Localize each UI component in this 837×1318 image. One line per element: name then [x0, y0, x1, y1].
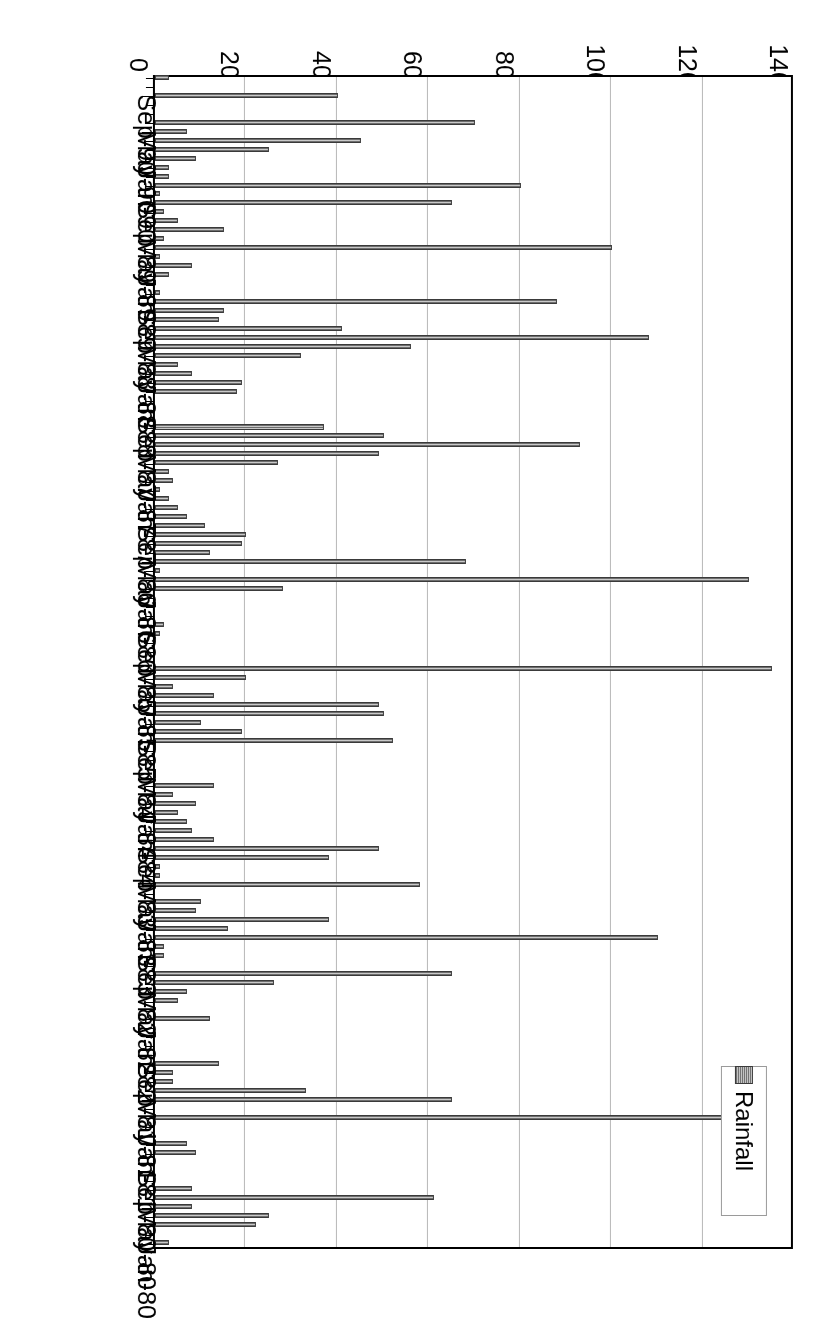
bar-row	[155, 425, 795, 430]
bar-row	[155, 433, 795, 438]
bar-row	[155, 416, 795, 421]
bar-row	[155, 263, 795, 268]
bar-row	[155, 675, 795, 680]
bar-row	[155, 568, 795, 573]
bar-row	[155, 308, 795, 313]
bar-row	[155, 1204, 795, 1209]
bar-row	[155, 819, 795, 824]
bar-row	[155, 774, 795, 779]
bar-Apr-85	[155, 675, 246, 680]
bar-Sep-83	[155, 846, 379, 851]
bar-Jun-86	[155, 550, 210, 555]
bar-row	[155, 1168, 795, 1173]
bar-row	[155, 577, 795, 582]
bar-row	[155, 792, 795, 797]
bar-Nov-90	[155, 75, 169, 80]
bar-row	[155, 147, 795, 152]
bar-Aug-86	[155, 532, 246, 537]
bar-row	[155, 111, 795, 116]
bar-row	[155, 1007, 795, 1012]
bar-Jun-87	[155, 442, 580, 447]
bar-row	[155, 1124, 795, 1129]
bar-row	[155, 926, 795, 931]
bar-row	[155, 362, 795, 367]
bar-row	[155, 658, 795, 663]
bar-Jan-85	[155, 702, 379, 707]
bar-Jun-81	[155, 1088, 306, 1093]
bar-row	[155, 1231, 795, 1236]
bar-row	[155, 200, 795, 205]
bar-Aug-87	[155, 425, 324, 430]
bar-Feb-82	[155, 1016, 210, 1021]
bar-row	[155, 613, 795, 618]
bar-row	[155, 407, 795, 412]
bar-row	[155, 971, 795, 976]
bar-Jun-80	[155, 1195, 434, 1200]
bar-row	[155, 174, 795, 179]
bar-row	[155, 1043, 795, 1048]
bar-row	[155, 765, 795, 770]
bar-row	[155, 1159, 795, 1164]
bar-row	[155, 864, 795, 869]
bar-row	[155, 649, 795, 654]
bar-row	[155, 514, 795, 519]
bar-row	[155, 935, 795, 940]
bar-Sep-84	[155, 738, 393, 743]
bar-Mar-83	[155, 899, 201, 904]
bar-row	[155, 1016, 795, 1021]
bar-row	[155, 846, 795, 851]
bar-row	[155, 908, 795, 913]
bar-Dec-82	[155, 926, 228, 931]
bar-row	[155, 1025, 795, 1030]
bar-row	[155, 451, 795, 456]
bar-row	[155, 783, 795, 788]
category-axis-tick-labels: Jan-80May-80Sep-80Jan-81May-81Sep-81Jan-…	[27, 75, 147, 1249]
bar-row	[155, 1150, 795, 1155]
bar-row	[155, 998, 795, 1003]
bar-row	[155, 353, 795, 358]
bar-Oct-83	[155, 837, 214, 842]
bar-row	[155, 75, 795, 80]
bar-Mar-81	[155, 1115, 736, 1120]
bar-row	[155, 899, 795, 904]
bar-row	[155, 747, 795, 752]
bar-Apr-89	[155, 245, 612, 250]
chart-legend: Rainfall	[721, 1066, 767, 1216]
bar-Nov-84	[155, 720, 201, 725]
bar-row	[155, 873, 795, 878]
bar-row	[155, 693, 795, 698]
bar-row	[155, 380, 795, 385]
bar-Apr-80	[155, 1213, 269, 1218]
bar-Oct-84	[155, 729, 242, 734]
bar-Dec-87	[155, 389, 237, 394]
bar-row	[155, 317, 795, 322]
bar-row	[155, 595, 795, 600]
bar-row	[155, 218, 795, 223]
bar-row	[155, 290, 795, 295]
bar-row	[155, 1186, 795, 1191]
bar-Sep-89	[155, 200, 452, 205]
bar-Nov-82	[155, 935, 658, 940]
bar-May-83	[155, 882, 420, 887]
bar-row	[155, 729, 795, 734]
bar-row	[155, 102, 795, 107]
bar-row	[155, 496, 795, 501]
bar-row	[155, 183, 795, 188]
bar-Jun-89	[155, 227, 224, 232]
bar-Jul-87	[155, 433, 384, 438]
bar-May-86	[155, 559, 466, 564]
bar-row	[155, 891, 795, 896]
bar-row	[155, 254, 795, 259]
bar-row	[155, 487, 795, 492]
bar-row	[155, 604, 795, 609]
bar-row	[155, 828, 795, 833]
legend-entry-rainfall: Rainfall	[730, 1066, 758, 1216]
bar-Nov-89	[155, 183, 521, 188]
bar-row	[155, 631, 795, 636]
bar-row	[155, 953, 795, 958]
bar-Mar-80	[155, 1222, 256, 1227]
bar-May-81	[155, 1097, 452, 1102]
bar-row	[155, 882, 795, 887]
bar-row	[155, 138, 795, 143]
